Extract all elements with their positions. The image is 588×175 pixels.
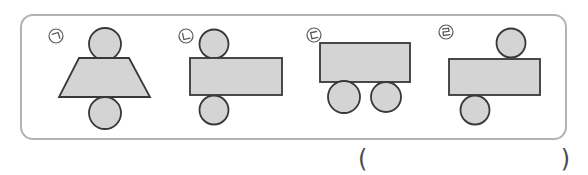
shapes-figure xyxy=(0,0,588,150)
open-paren: ( xyxy=(358,147,367,171)
top-circle xyxy=(89,28,121,60)
top-circle xyxy=(200,30,229,59)
close-paren: ) xyxy=(561,147,570,171)
right-wheel-circle xyxy=(371,82,401,112)
bottom-circle xyxy=(89,97,121,129)
bottom-circle xyxy=(461,96,490,125)
rectangle xyxy=(190,58,282,95)
rectangle xyxy=(449,59,540,95)
worksheet-figure-page: ( ) xyxy=(0,0,588,175)
top-circle xyxy=(497,29,526,58)
rectangle xyxy=(320,43,410,82)
answer-blank: ( ) xyxy=(358,144,570,174)
bottom-circle xyxy=(200,96,229,125)
left-wheel-circle xyxy=(328,81,360,113)
